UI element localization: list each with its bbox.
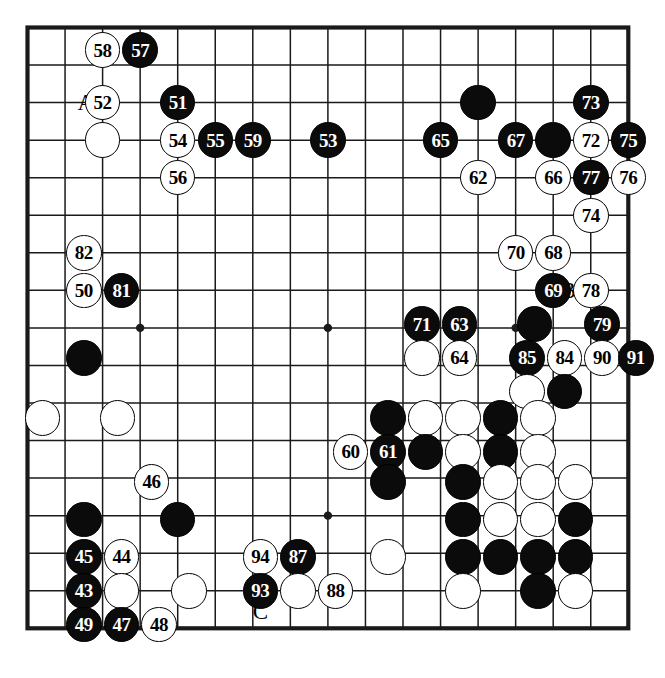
stone-white[interactable] <box>171 573 207 609</box>
numbered-stone-44[interactable]: 44 <box>104 539 140 575</box>
stone-white[interactable] <box>408 400 444 436</box>
stone-black[interactable] <box>445 464 481 500</box>
stone-black[interactable] <box>520 539 556 575</box>
numbered-stone-88[interactable]: 88 <box>318 573 354 609</box>
numbered-stone-93[interactable]: 93 <box>243 573 279 609</box>
numbered-stone-87[interactable]: 87 <box>280 539 316 575</box>
stone-number: 45 <box>75 547 93 566</box>
numbered-stone-67[interactable]: 67 <box>498 122 534 158</box>
stone-black[interactable] <box>445 502 481 538</box>
stone-black[interactable] <box>517 306 553 342</box>
stone-white[interactable] <box>100 400 136 436</box>
numbered-stone-73[interactable]: 73 <box>573 85 609 121</box>
stone-white[interactable] <box>520 464 556 500</box>
numbered-stone-82[interactable]: 82 <box>66 235 102 271</box>
stone-white[interactable] <box>445 573 481 609</box>
stone-number: 88 <box>326 581 344 600</box>
numbered-stone-48[interactable]: 48 <box>141 607 177 643</box>
stone-number: 46 <box>142 472 160 491</box>
numbered-stone-76[interactable]: 76 <box>611 160 647 196</box>
stone-number: 85 <box>518 348 536 367</box>
numbered-stone-81[interactable]: 81 <box>104 273 140 309</box>
stone-number: 48 <box>150 615 168 634</box>
stone-white[interactable] <box>483 464 519 500</box>
numbered-stone-90[interactable]: 90 <box>584 340 620 376</box>
stone-white[interactable] <box>558 573 594 609</box>
numbered-stone-54[interactable]: 54 <box>160 122 196 158</box>
stone-number: 61 <box>379 442 397 461</box>
go-board[interactable]: 5857525173545559536567727556626677767482… <box>18 18 638 660</box>
numbered-stone-85[interactable]: 85 <box>509 340 545 376</box>
numbered-stone-63[interactable]: 63 <box>442 306 478 342</box>
numbered-stone-94[interactable]: 94 <box>243 539 279 575</box>
numbered-stone-77[interactable]: 77 <box>573 160 609 196</box>
numbered-stone-65[interactable]: 65 <box>423 122 459 158</box>
stone-black[interactable] <box>460 85 496 121</box>
numbered-stone-49[interactable]: 49 <box>66 607 102 643</box>
stone-number: 65 <box>432 130 450 149</box>
stone-black[interactable] <box>558 539 594 575</box>
stone-white[interactable] <box>85 122 121 158</box>
stone-white[interactable] <box>280 573 316 609</box>
stone-number: 73 <box>582 93 600 112</box>
stone-black[interactable] <box>445 539 481 575</box>
numbered-stone-68[interactable]: 68 <box>535 235 571 271</box>
stone-number: 49 <box>75 615 93 634</box>
numbered-stone-46[interactable]: 46 <box>134 464 170 500</box>
numbered-stone-74[interactable]: 74 <box>573 198 609 234</box>
numbered-stone-75[interactable]: 75 <box>611 122 647 158</box>
numbered-stone-84[interactable]: 84 <box>547 340 583 376</box>
numbered-stone-43[interactable]: 43 <box>66 573 102 609</box>
stone-number: 55 <box>206 130 224 149</box>
numbered-stone-66[interactable]: 66 <box>535 160 571 196</box>
stone-number: 93 <box>251 581 269 600</box>
stone-black[interactable] <box>520 573 556 609</box>
stone-number: 81 <box>112 280 130 299</box>
numbered-stone-50[interactable]: 50 <box>66 273 102 309</box>
stone-number: 62 <box>469 168 487 187</box>
stone-number: 70 <box>507 243 525 262</box>
numbered-stone-57[interactable]: 57 <box>122 32 158 68</box>
numbered-stone-60[interactable]: 60 <box>333 434 369 470</box>
numbered-stone-58[interactable]: 58 <box>85 32 121 68</box>
stone-black[interactable] <box>66 502 102 538</box>
stone-white[interactable] <box>520 502 556 538</box>
numbered-stone-70[interactable]: 70 <box>498 235 534 271</box>
stone-number: 56 <box>169 168 187 187</box>
numbered-stone-59[interactable]: 59 <box>235 122 271 158</box>
numbered-stone-62[interactable]: 62 <box>460 160 496 196</box>
numbered-stone-78[interactable]: 78 <box>573 273 609 309</box>
numbered-stone-79[interactable]: 79 <box>584 306 620 342</box>
stone-black[interactable] <box>370 400 406 436</box>
numbered-stone-72[interactable]: 72 <box>573 122 609 158</box>
stone-black[interactable] <box>483 539 519 575</box>
stone-number: 75 <box>619 130 637 149</box>
stone-white[interactable] <box>558 464 594 500</box>
stone-white[interactable] <box>404 340 440 376</box>
stone-number: 82 <box>75 243 93 262</box>
stone-white[interactable] <box>104 573 140 609</box>
stone-black[interactable] <box>66 340 102 376</box>
stone-number: 78 <box>582 280 600 299</box>
numbered-stone-45[interactable]: 45 <box>66 539 102 575</box>
stone-black[interactable] <box>408 434 444 470</box>
stone-black[interactable] <box>483 400 519 436</box>
stone-number: 47 <box>112 615 130 634</box>
stone-white[interactable] <box>445 400 481 436</box>
numbered-stone-64[interactable]: 64 <box>442 340 478 376</box>
stone-white[interactable] <box>370 539 406 575</box>
numbered-stone-71[interactable]: 71 <box>404 306 440 342</box>
stone-black[interactable] <box>370 464 406 500</box>
numbered-stone-55[interactable]: 55 <box>198 122 234 158</box>
stone-number: 72 <box>582 130 600 149</box>
numbered-stone-69[interactable]: 69 <box>535 273 571 309</box>
stone-number: 64 <box>450 348 468 367</box>
stone-number: 51 <box>169 93 187 112</box>
numbered-stone-53[interactable]: 53 <box>310 122 346 158</box>
stone-white[interactable] <box>25 400 61 436</box>
stone-number: 90 <box>593 348 611 367</box>
numbered-stone-91[interactable]: 91 <box>618 340 654 376</box>
stone-black[interactable] <box>535 122 571 158</box>
stone-white[interactable] <box>520 400 556 436</box>
stone-number: 52 <box>94 93 112 112</box>
